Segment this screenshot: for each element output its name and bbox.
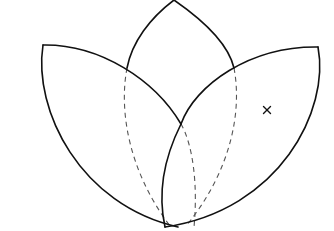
x-marker-icon xyxy=(264,107,271,114)
hidden-edges xyxy=(124,68,236,227)
right-petal-inner-edge xyxy=(162,124,181,227)
right-petal-top-edge xyxy=(181,47,318,124)
left-petal-outline xyxy=(42,45,178,227)
right-petal-outline xyxy=(165,47,320,227)
center-petal-right-edge xyxy=(174,0,234,68)
center-petal-hidden-left-edge xyxy=(124,68,170,226)
center-petal-left-edge xyxy=(127,0,174,68)
left-petal-hidden-inner-edge xyxy=(181,124,195,227)
left-petal-top-edge xyxy=(43,45,181,124)
center-petal-hidden-right-edge xyxy=(186,68,236,226)
lotus-diagram xyxy=(0,0,334,231)
